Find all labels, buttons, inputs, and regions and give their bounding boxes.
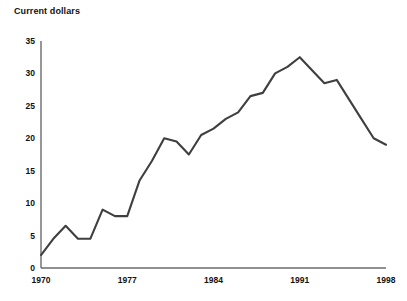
y-tick-5: 5 xyxy=(30,231,35,241)
x-tick-1970: 1970 xyxy=(32,275,51,285)
y-tick-10: 10 xyxy=(26,198,36,208)
y-axis-tick-labels: 05101520253035 xyxy=(26,36,36,273)
data-series-line xyxy=(41,57,386,255)
x-tick-1977: 1977 xyxy=(118,275,137,285)
y-tick-15: 15 xyxy=(26,166,36,176)
y-tick-35: 35 xyxy=(26,36,36,46)
y-tick-20: 20 xyxy=(26,133,36,143)
chart-figure: Current dollars 05101520253035 197019771… xyxy=(0,0,407,301)
y-tick-30: 30 xyxy=(26,68,36,78)
x-axis-tick-labels: 19701977198419911998 xyxy=(32,275,396,285)
y-tick-25: 25 xyxy=(26,101,36,111)
x-tick-1984: 1984 xyxy=(204,275,223,285)
x-tick-1998: 1998 xyxy=(377,275,396,285)
line-chart-plot: 05101520253035 19701977198419911998 xyxy=(0,0,407,301)
x-tick-1991: 1991 xyxy=(290,275,309,285)
y-tick-0: 0 xyxy=(30,263,35,273)
